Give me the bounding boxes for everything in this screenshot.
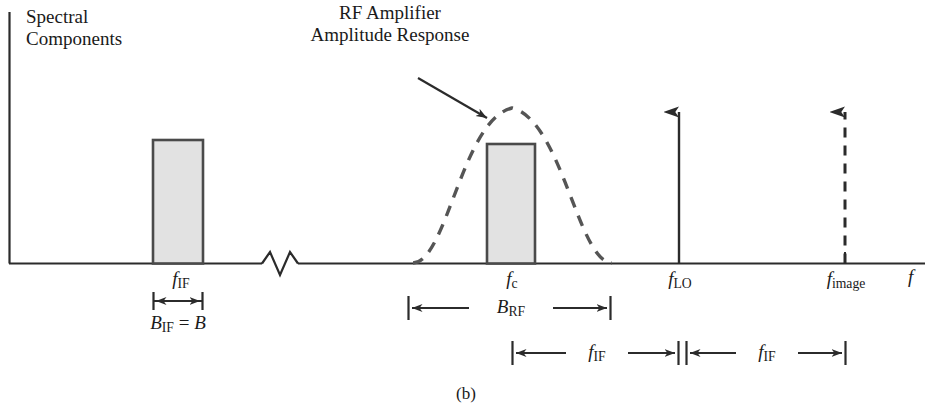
bar-f-c xyxy=(487,144,535,264)
figure-canvas xyxy=(0,0,933,412)
bar-f-if xyxy=(153,140,203,264)
dimension-label-f-if-left: fIF xyxy=(588,341,605,365)
figure-caption: (b) xyxy=(456,384,476,404)
tick-label-f-if-sub: IF xyxy=(178,276,190,291)
tick-label-f-image-sub: image xyxy=(832,276,865,291)
dimension-label-b-if: BIF = B xyxy=(150,312,206,336)
x-axis-symbol: f xyxy=(908,266,913,288)
dimension-label-b-rf: BRF xyxy=(497,296,525,320)
axis-break-symbol xyxy=(262,252,298,275)
tick-label-f-lo-sub: LO xyxy=(674,276,692,291)
tick-label-f-c-sub: c xyxy=(512,276,518,291)
b-if-equals: = xyxy=(174,312,194,333)
f-if-right-sub: IF xyxy=(764,349,776,364)
b-if-rhs: B xyxy=(194,312,206,333)
tick-label-f-lo: fLO xyxy=(668,268,692,292)
spectral-components-figure: Spectral Components RF Amplifier Amplitu… xyxy=(0,0,933,412)
callout-arrow xyxy=(418,78,487,118)
callout-line-1: RF Amplifier xyxy=(311,2,470,24)
b-rf-sub: RF xyxy=(508,304,525,319)
y-axis-title-line2: Components xyxy=(26,28,122,50)
x-axis xyxy=(9,252,925,275)
callout-line-2: Amplitude Response xyxy=(311,24,470,46)
b-if-base: B xyxy=(150,312,162,333)
y-axis-title-line1: Spectral xyxy=(26,6,122,28)
tick-label-f-image: fimage xyxy=(827,268,866,292)
tick-label-f-if: fIF xyxy=(172,268,189,292)
dimension-label-f-if-right: fIF xyxy=(758,341,775,365)
b-if-sub: IF xyxy=(162,320,174,335)
f-if-left-sub: IF xyxy=(594,349,606,364)
dimension-b-if xyxy=(154,292,203,310)
rf-amplifier-callout: RF Amplifier Amplitude Response xyxy=(311,2,470,47)
b-rf-base: B xyxy=(497,296,509,317)
tick-label-f-c: fc xyxy=(506,268,517,292)
y-axis-title: Spectral Components xyxy=(26,6,122,51)
